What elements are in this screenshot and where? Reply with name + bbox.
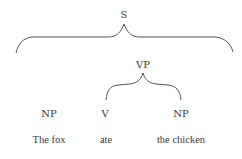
vp-brace [106, 73, 181, 100]
node-v: V [100, 108, 109, 119]
syntax-tree-diagram: S VP NP V NP The fox ate the chicken [0, 0, 242, 159]
word-ate: ate [100, 134, 113, 145]
node-vp: VP [135, 59, 150, 70]
node-s: S [121, 9, 128, 20]
s-brace [16, 24, 233, 53]
node-np-object: NP [173, 108, 189, 119]
word-the-chicken: the chicken [157, 134, 206, 145]
word-the-fox: The fox [33, 134, 67, 145]
node-np-subject: NP [41, 108, 57, 119]
